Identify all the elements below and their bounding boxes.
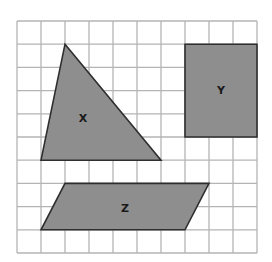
label-z: Z [121, 202, 129, 215]
shapes-on-grid-diagram: X Y Z [0, 0, 272, 262]
diagram-canvas: X Y Z [0, 0, 272, 262]
label-x: X [79, 112, 88, 125]
triangle-x [41, 44, 161, 160]
label-y: Y [216, 84, 226, 97]
